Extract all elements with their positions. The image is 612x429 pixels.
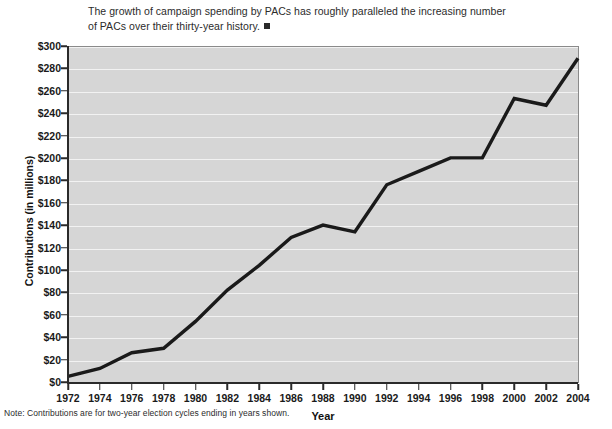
- x-axis-tick-mark: [67, 384, 69, 390]
- x-axis-tick-label: 1976: [120, 392, 143, 404]
- x-axis-tick-mark: [354, 384, 356, 390]
- x-axis-tick-label: 1972: [56, 392, 79, 404]
- y-axis-tick-label: $180: [38, 174, 61, 186]
- x-axis-tick-mark: [418, 384, 420, 390]
- line-series: [68, 47, 578, 383]
- x-axis-tick-label: 1990: [343, 392, 366, 404]
- x-axis-tick-label: 1986: [279, 392, 302, 404]
- x-axis-tick-label: 1978: [152, 392, 175, 404]
- x-axis-tick-mark: [290, 384, 292, 390]
- y-axis-tick-mark: [61, 112, 67, 114]
- y-axis-tick-label: $20: [43, 354, 61, 366]
- y-axis-tick-mark: [61, 314, 67, 316]
- y-axis-tick-label: $160: [38, 197, 61, 209]
- y-axis-tick-mark: [61, 269, 67, 271]
- y-axis-tick-label: $200: [38, 152, 61, 164]
- x-axis-tick-mark: [163, 384, 165, 390]
- x-axis-tick-mark: [99, 384, 101, 390]
- x-axis-tick-label: 1984: [248, 392, 271, 404]
- x-axis-tick-label: 1998: [471, 392, 494, 404]
- chart-footnote: Note: Contributions are for two-year ele…: [4, 408, 289, 418]
- chart-caption: The growth of campaign spending by PACs …: [88, 4, 508, 34]
- x-axis-tick-mark: [545, 384, 547, 390]
- x-axis-tick-mark: [195, 384, 197, 390]
- series-polyline: [68, 58, 578, 376]
- y-axis-tick-mark: [61, 336, 67, 338]
- y-axis-tick-label: $300: [38, 40, 61, 52]
- y-axis-tick-label: $120: [38, 242, 61, 254]
- x-axis-tick-mark: [386, 384, 388, 390]
- x-axis-tick-mark: [227, 384, 229, 390]
- y-axis-tick-mark: [61, 292, 67, 294]
- x-axis-tick-label: 1994: [407, 392, 430, 404]
- y-axis-tick-label: $260: [38, 85, 61, 97]
- y-axis-tick-label: $140: [38, 219, 61, 231]
- y-axis-tick-label: $0: [49, 376, 61, 388]
- x-axis-tick-label: 1996: [439, 392, 462, 404]
- y-axis-tick-mark: [61, 359, 67, 361]
- y-axis-tick-mark: [61, 202, 67, 204]
- y-axis-tick-mark: [61, 224, 67, 226]
- x-axis-tick-mark: [577, 384, 579, 390]
- y-axis-tick-label: $240: [38, 107, 61, 119]
- y-axis-tick-label: $220: [38, 130, 61, 142]
- x-axis-tick-mark: [450, 384, 452, 390]
- y-axis-tick-label: $280: [38, 62, 61, 74]
- y-axis-tick-mark: [61, 135, 67, 137]
- y-axis-tick-mark: [61, 157, 67, 159]
- x-axis-tick-label: 1980: [184, 392, 207, 404]
- y-axis-tick-label: $40: [43, 331, 61, 343]
- y-axis-tick-mark: [61, 68, 67, 70]
- end-marker-square-icon: [264, 23, 270, 29]
- x-axis-tick-label: 1982: [216, 392, 239, 404]
- y-axis-tick-mark: [61, 381, 67, 383]
- y-axis-tick-label: $80: [43, 286, 61, 298]
- y-axis-tick-label: $100: [38, 264, 61, 276]
- y-axis-line: [67, 46, 69, 383]
- x-axis-tick-label: 2004: [566, 392, 589, 404]
- x-axis-tick-label: 2000: [503, 392, 526, 404]
- x-axis-tick-label: 1988: [311, 392, 334, 404]
- x-axis-tick-mark: [259, 384, 261, 390]
- chart-container: $0$20$40$60$80$100$120$140$160$180$200$2…: [0, 40, 612, 390]
- x-axis-tick-label: 1992: [375, 392, 398, 404]
- y-axis-title: Contributions (in millions): [23, 106, 35, 336]
- x-axis-tick-mark: [131, 384, 133, 390]
- y-axis-tick-mark: [61, 90, 67, 92]
- x-axis-tick-mark: [482, 384, 484, 390]
- y-axis-tick-mark: [61, 45, 67, 47]
- y-axis-tick-label: $60: [43, 309, 61, 321]
- plot-area: [68, 46, 579, 383]
- x-axis-tick-label: 1974: [88, 392, 111, 404]
- y-axis-tick-mark: [61, 180, 67, 182]
- chart-caption-text: The growth of campaign spending by PACs …: [88, 5, 506, 32]
- x-axis-tick-label: 2002: [534, 392, 557, 404]
- y-axis-tick-mark: [61, 247, 67, 249]
- x-axis-tick-mark: [514, 384, 516, 390]
- x-axis-tick-mark: [322, 384, 324, 390]
